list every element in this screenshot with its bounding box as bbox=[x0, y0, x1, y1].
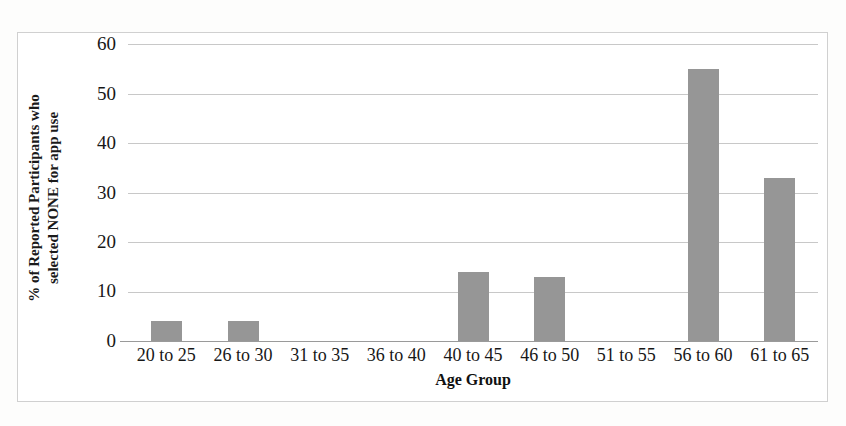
x-tick-label: 20 to 25 bbox=[128, 345, 205, 366]
bar[interactable] bbox=[151, 321, 182, 341]
bar[interactable] bbox=[764, 178, 795, 341]
y-tick-50: 50 bbox=[56, 83, 116, 105]
bar[interactable] bbox=[228, 321, 259, 341]
x-tick-label: 40 to 45 bbox=[435, 345, 512, 366]
bar-slot bbox=[205, 44, 282, 341]
bar[interactable] bbox=[688, 69, 719, 341]
x-axis-line bbox=[120, 341, 818, 342]
x-tick-label: 36 to 40 bbox=[358, 345, 435, 366]
x-axis-title: Age Group bbox=[128, 371, 818, 389]
bar-slot bbox=[741, 44, 818, 341]
y-axis-tick-labels: 60 50 40 30 20 10 0 bbox=[52, 44, 116, 341]
bar-slot bbox=[588, 44, 665, 341]
y-axis-title-line-1: % of Reported Participants who bbox=[25, 43, 44, 353]
bar-slot bbox=[128, 44, 205, 341]
y-tick-40: 40 bbox=[56, 132, 116, 154]
x-tick-label: 31 to 35 bbox=[281, 345, 358, 366]
figure-background: % of Reported Participants who selected … bbox=[0, 0, 846, 426]
x-tick-label: 51 to 55 bbox=[588, 345, 665, 366]
bar-series bbox=[128, 44, 818, 341]
bar-slot bbox=[511, 44, 588, 341]
bar-slot bbox=[281, 44, 358, 341]
x-tick-label: 56 to 60 bbox=[665, 345, 742, 366]
x-tick-label: 26 to 30 bbox=[205, 345, 282, 366]
bar-slot bbox=[435, 44, 512, 341]
y-tick-0: 0 bbox=[56, 330, 116, 352]
x-tick-label: 61 to 65 bbox=[741, 345, 818, 366]
y-tick-60: 60 bbox=[56, 33, 116, 55]
bar[interactable] bbox=[534, 277, 565, 341]
bar-slot bbox=[358, 44, 435, 341]
x-tick-label: 46 to 50 bbox=[511, 345, 588, 366]
x-axis-tick-labels: 20 to 25 26 to 30 31 to 35 36 to 40 40 t… bbox=[128, 345, 818, 366]
y-tick-20: 20 bbox=[56, 231, 116, 253]
y-tick-30: 30 bbox=[56, 182, 116, 204]
y-tick-10: 10 bbox=[56, 280, 116, 302]
bar[interactable] bbox=[458, 272, 489, 341]
plot-area bbox=[128, 44, 818, 341]
bar-slot bbox=[665, 44, 742, 341]
